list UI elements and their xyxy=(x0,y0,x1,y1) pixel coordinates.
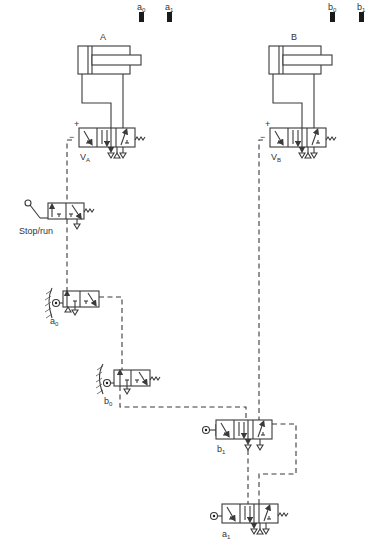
cylinder-a-label: A xyxy=(100,32,106,42)
sensor-a1-icon xyxy=(167,12,172,22)
valve-b0: b0 xyxy=(96,364,160,407)
cylinder-b-label: B xyxy=(291,32,297,42)
pilot-lines xyxy=(67,140,296,504)
valve-a0: a0 xyxy=(45,288,99,327)
sensor-a0-label: a0 xyxy=(137,2,146,13)
cylinder-b: B b0 b1 xyxy=(269,2,366,128)
sensor-a0-icon xyxy=(139,12,144,22)
sensor-b1-icon xyxy=(359,12,364,22)
valve-b1: b1 xyxy=(203,420,273,455)
valve-stop-run: Stop/run xyxy=(19,200,94,236)
stop-run-label: Stop/run xyxy=(19,226,53,236)
valve-a1-label: a1 xyxy=(222,529,231,540)
valve-b1-label: b1 xyxy=(217,444,226,455)
sensor-b0-icon xyxy=(330,12,335,22)
valve-vb-label: VB xyxy=(271,152,281,163)
valve-va: + − VA xyxy=(69,119,145,163)
sensor-a1-label: a1 xyxy=(165,2,174,13)
cylinder-a: A a0 a1 xyxy=(78,2,174,128)
valve-a1: a1 xyxy=(211,504,289,540)
sensor-b1-label: b1 xyxy=(357,2,366,13)
pneumatic-circuit-diagram: A a0 a1 B b0 b1 + − xyxy=(0,0,372,549)
valve-a0-label: a0 xyxy=(50,316,59,327)
valve-b0-label: b0 xyxy=(104,396,113,407)
valve-vb: + − VB xyxy=(260,119,336,163)
valve-va-label: VA xyxy=(80,152,90,163)
sensor-b0-label: b0 xyxy=(328,2,337,13)
